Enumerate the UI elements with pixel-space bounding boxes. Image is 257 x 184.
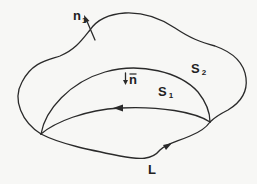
contour-l-top-arc [41, 108, 210, 134]
contour-direction-arrow-bottom [163, 143, 172, 150]
normal-vector-n1-icon [86, 19, 95, 40]
contour-l-bottom-arc [41, 122, 210, 158]
label-l: L [148, 162, 156, 177]
label-s2: S2 [191, 61, 207, 77]
normal-vector-n-arrowhead [123, 80, 128, 85]
surface-diagram: n1 n S2 S1 L [0, 0, 257, 184]
contour-direction-arrow-top [113, 105, 123, 112]
label-s1: S1 [158, 84, 174, 100]
label-n1: n1 [73, 8, 87, 25]
